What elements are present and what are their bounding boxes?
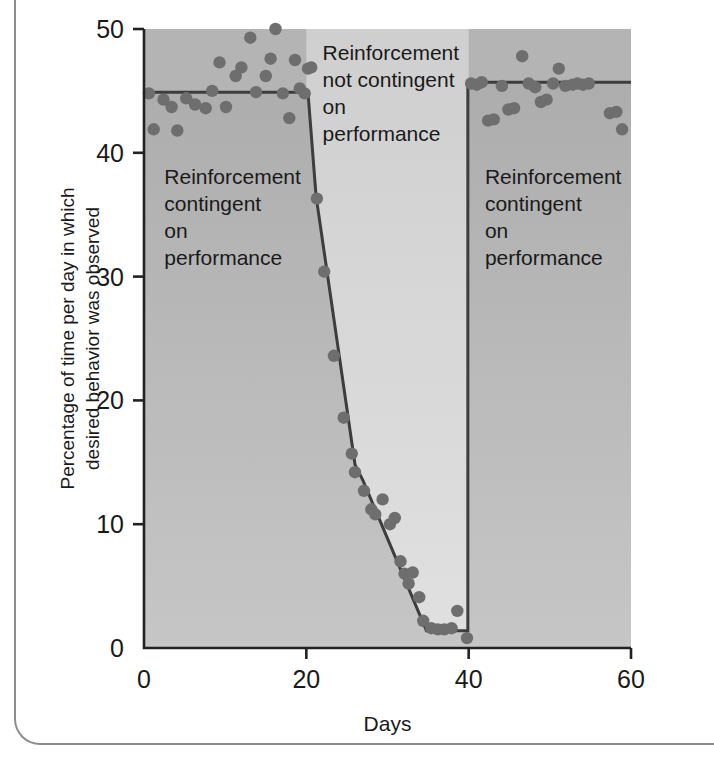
data-point <box>338 412 350 424</box>
y-axis-tick-label: 10 <box>96 510 124 538</box>
phase-annotation-line: on <box>164 219 187 242</box>
data-point <box>583 77 595 89</box>
phase-annotation-line: performance <box>485 246 603 269</box>
data-point <box>269 23 281 35</box>
y-axis-title-line-1: Percentage of time per day in which <box>57 187 78 489</box>
data-point <box>189 98 201 110</box>
data-point <box>413 591 425 603</box>
data-point <box>496 80 508 92</box>
data-point <box>250 86 262 98</box>
data-point <box>165 101 177 113</box>
data-point <box>376 493 388 505</box>
data-point <box>461 632 473 644</box>
data-point <box>610 106 622 118</box>
data-point <box>244 32 256 44</box>
data-point <box>358 485 370 497</box>
x-axis-tick-label: 40 <box>455 665 483 693</box>
data-point <box>616 123 628 135</box>
data-point <box>402 577 414 589</box>
data-point <box>445 622 457 634</box>
data-point <box>289 54 301 66</box>
phase-annotation-line: Reinforcement <box>164 165 301 188</box>
data-point <box>148 123 160 135</box>
data-point <box>349 466 361 478</box>
phase-annotation-line: Reinforcement <box>323 41 460 64</box>
y-axis-title: Percentage of time per day in whichdesir… <box>57 187 103 489</box>
data-point <box>389 512 401 524</box>
data-point <box>311 192 323 204</box>
x-axis-tick-label: 0 <box>137 665 151 693</box>
data-point <box>516 50 528 62</box>
phase-annotation-line: performance <box>323 122 441 145</box>
data-point <box>547 77 559 89</box>
data-point <box>213 56 225 68</box>
data-point <box>553 62 565 74</box>
data-point <box>305 61 317 73</box>
data-point <box>264 53 276 65</box>
x-axis-tick-label: 60 <box>617 665 645 693</box>
y-axis-tick-label: 40 <box>96 139 124 167</box>
data-point <box>277 87 289 99</box>
data-point <box>369 508 381 520</box>
data-point <box>299 87 311 99</box>
data-point <box>235 61 247 73</box>
x-axis-tick-label: 20 <box>292 665 320 693</box>
data-point <box>283 112 295 124</box>
x-axis-title: Days <box>364 712 412 735</box>
data-point <box>200 102 212 114</box>
phase-3-upper-shade <box>469 29 631 82</box>
phase-annotation-line: on <box>323 95 346 118</box>
data-point <box>220 101 232 113</box>
data-point <box>206 85 218 97</box>
phase-annotation-line: Reinforcement <box>485 165 622 188</box>
data-point <box>346 447 358 459</box>
data-point <box>394 555 406 567</box>
phase-annotation-line: performance <box>164 246 282 269</box>
data-point <box>260 70 272 82</box>
data-point <box>328 350 340 362</box>
data-point <box>508 102 520 114</box>
phase-annotation-line: contingent <box>485 192 582 215</box>
data-point <box>540 93 552 105</box>
data-point <box>529 81 541 93</box>
phase-annotation-line: on <box>485 219 508 242</box>
data-point <box>476 76 488 88</box>
y-axis-tick-label: 50 <box>96 15 124 43</box>
data-point <box>171 124 183 136</box>
phase-annotation-line: contingent <box>164 192 261 215</box>
data-point <box>407 566 419 578</box>
y-axis-title-line-2: desired behavior was observed <box>82 207 103 470</box>
y-axis-tick-label: 0 <box>110 634 124 662</box>
phase-annotation-line: not contingent <box>323 68 455 91</box>
data-point <box>318 265 330 277</box>
data-point <box>488 113 500 125</box>
data-point <box>451 605 463 617</box>
